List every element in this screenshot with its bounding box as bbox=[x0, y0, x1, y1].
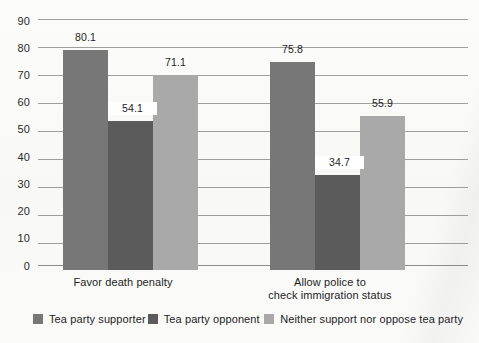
gridline-80 bbox=[38, 47, 468, 48]
legend-item-tea-party-supporter[interactable]: Tea party supporter bbox=[33, 314, 148, 325]
y-tick-90: 90 bbox=[18, 16, 30, 27]
legend-label-series2: Neither support nor oppose tea party bbox=[280, 314, 463, 325]
data-label-group1-series0: 75.8 bbox=[270, 44, 315, 55]
bar-group1-series2[interactable] bbox=[360, 116, 405, 270]
data-label-group0-series0: 80.1 bbox=[63, 32, 108, 43]
y-tick-30: 30 bbox=[18, 179, 30, 190]
data-label-group1-series1: 34.7 bbox=[315, 156, 364, 169]
legend-swatch-icon-series1 bbox=[148, 314, 158, 324]
y-tick-0: 0 bbox=[24, 261, 30, 272]
legend-swatch-icon-series2 bbox=[264, 314, 274, 324]
legend-item-neither-support-nor-oppose[interactable]: Neither support nor oppose tea party bbox=[264, 314, 463, 325]
gridline-90 bbox=[38, 19, 468, 20]
bar-chart: 90 80 70 60 50 40 30 20 10 0 80.1 54.1 7… bbox=[0, 0, 479, 343]
y-axis: 90 80 70 60 50 40 30 20 10 0 bbox=[0, 16, 38, 270]
x-category-label-1-line1: Allow police to bbox=[294, 276, 366, 288]
chart-legend: Tea party supporter Tea party opponent N… bbox=[33, 311, 463, 327]
legend-label-series1: Tea party opponent bbox=[164, 314, 260, 325]
y-tick-60: 60 bbox=[18, 97, 30, 108]
x-category-label-0: Favor death penalty bbox=[43, 276, 203, 289]
y-tick-80: 80 bbox=[18, 43, 30, 54]
bar-group0-series1[interactable] bbox=[108, 121, 153, 270]
y-tick-70: 70 bbox=[18, 70, 30, 81]
bar-group0-series0[interactable] bbox=[63, 50, 108, 270]
data-label-group0-series2: 71.1 bbox=[153, 57, 198, 68]
bar-group0-series2[interactable] bbox=[153, 75, 198, 270]
legend-item-tea-party-opponent[interactable]: Tea party opponent bbox=[148, 314, 265, 325]
x-category-label-1: Allow police tocheck immigration status bbox=[250, 276, 410, 302]
bar-group1-series1[interactable] bbox=[315, 175, 360, 270]
data-label-group1-series2: 55.9 bbox=[360, 98, 405, 109]
y-tick-10: 10 bbox=[18, 233, 30, 244]
legend-swatch-icon-series0 bbox=[33, 314, 43, 324]
data-label-group0-series1: 54.1 bbox=[108, 102, 157, 115]
y-tick-50: 50 bbox=[18, 124, 30, 135]
y-tick-40: 40 bbox=[18, 152, 30, 163]
bar-group1-series0[interactable] bbox=[270, 62, 315, 270]
y-tick-20: 20 bbox=[18, 206, 30, 217]
plot-area: 80.1 54.1 71.1 75.8 34.7 55.9 bbox=[38, 16, 468, 270]
legend-label-series0: Tea party supporter bbox=[49, 314, 146, 325]
x-category-label-1-line2: check immigration status bbox=[268, 289, 391, 301]
